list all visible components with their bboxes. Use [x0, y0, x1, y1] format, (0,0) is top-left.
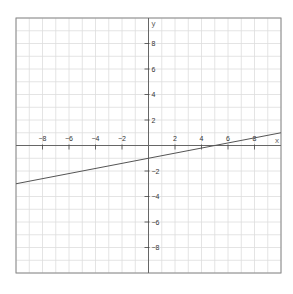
x-tick-label: −2: [118, 135, 126, 142]
y-tick-label: −2: [152, 168, 160, 175]
coordinate-plane: −8−6−4−224688642−2−4−6−8 x y: [0, 0, 293, 294]
x-tick-label: 2: [173, 135, 177, 142]
x-tick-label: −8: [39, 135, 47, 142]
y-tick-label: 6: [152, 66, 156, 73]
y-tick-label: 4: [152, 91, 156, 98]
y-tick-label: −6: [152, 219, 160, 226]
y-axis-label: y: [152, 19, 156, 28]
y-tick-label: −8: [152, 244, 160, 251]
y-tick-label: −4: [152, 193, 160, 200]
x-tick-label: 6: [226, 135, 230, 142]
y-tick-label: 2: [152, 117, 156, 124]
y-tick-label: 8: [152, 40, 156, 47]
x-axis-label: x: [275, 136, 279, 145]
x-tick-label: −4: [92, 135, 100, 142]
x-tick-label: 4: [200, 135, 204, 142]
x-tick-label: −6: [65, 135, 73, 142]
